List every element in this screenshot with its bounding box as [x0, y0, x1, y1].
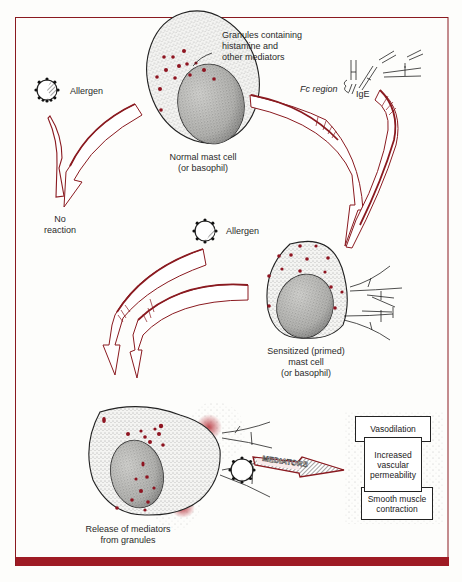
normal-mast-cell-label: Normal mast cell (or basophil) [153, 152, 253, 174]
allergen-label-middle: Allergen [226, 226, 259, 237]
degranulation-arrows [103, 249, 248, 378]
degranulating-mast-cell [89, 402, 272, 530]
no-reaction-arrow [48, 104, 142, 207]
granules-label: Granules containing histamine and other … [222, 30, 302, 63]
mast-cell-allergy-diagram: Granules containing histamine and other … [0, 0, 462, 582]
allergen-icon-bound [228, 456, 255, 483]
allergen-label-top: Allergen [70, 86, 103, 97]
allergen-icon-top [34, 77, 59, 102]
ige-antibody-icons [344, 50, 423, 94]
allergen-icon-middle [192, 218, 217, 243]
ige-label: IgE [356, 89, 370, 100]
sensitization-arrows [250, 90, 398, 248]
fc-region-label: Fc region [300, 84, 338, 95]
sensitized-mast-cell [267, 241, 402, 343]
figure-bottom-bar [16, 557, 449, 566]
sensitized-mast-cell-label: Sensitized (primed) mast cell (or basoph… [258, 346, 354, 379]
normal-mast-cell [130, 0, 276, 158]
increased-vascular-permeability-box: Increased vascular permeability [364, 437, 422, 492]
no-reaction-label: No reaction [38, 214, 82, 236]
release-of-mediators-label: Release of mediators from granules [83, 524, 173, 546]
